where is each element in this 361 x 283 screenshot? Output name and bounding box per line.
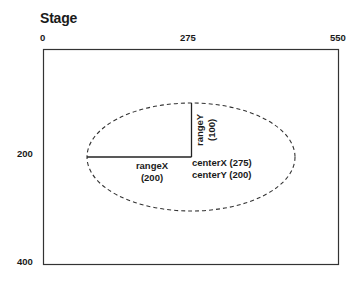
center-label: centerX (275) centerY (200): [192, 157, 252, 181]
centerY-label: centerY (200): [192, 169, 252, 181]
rangeX-value: (200): [130, 172, 174, 184]
rangeY-name: rangeY: [194, 114, 206, 146]
rangeX-name: rangeX: [130, 160, 174, 172]
rangeX-label: rangeX (200): [130, 160, 174, 184]
stage-diagram: [0, 0, 361, 283]
rangeY-value: (100): [206, 114, 218, 146]
rangeY-label: rangeY (100): [194, 114, 218, 146]
centerX-label: centerX (275): [192, 157, 252, 169]
